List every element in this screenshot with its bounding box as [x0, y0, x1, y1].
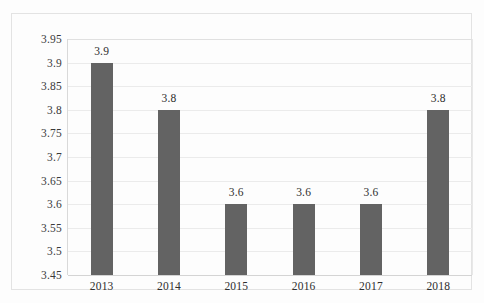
- bar: [293, 204, 315, 275]
- bar-value-label: 3.9: [94, 45, 109, 57]
- bar: [158, 110, 180, 275]
- gridline: [68, 275, 472, 276]
- x-axis-tick-label: 2017: [359, 280, 383, 292]
- y-axis-tick-label: 3.45: [41, 269, 62, 281]
- plot-area: 3.953.93.853.83.753.73.653.63.553.53.453…: [67, 39, 473, 275]
- chart-frame: 3.953.93.853.83.753.73.653.63.553.53.453…: [11, 13, 472, 290]
- y-axis-tick-label: 3.85: [41, 80, 62, 92]
- chart-screenshot: 3.953.93.853.83.753.73.653.63.553.53.453…: [0, 0, 484, 303]
- y-axis-tick-label: 3.7: [47, 151, 62, 163]
- bar-value-label: 3.6: [363, 186, 378, 198]
- bar: [225, 204, 247, 275]
- y-axis-tick-label: 3.55: [41, 222, 62, 234]
- bar-group: 3.82018: [405, 39, 472, 275]
- bar-group: 3.62016: [270, 39, 337, 275]
- y-axis-tick-label: 3.65: [41, 175, 62, 187]
- y-axis-tick-label: 3.95: [41, 33, 62, 45]
- x-axis-tick-label: 2015: [224, 280, 248, 292]
- y-axis-tick-label: 3.5: [47, 245, 62, 257]
- y-axis-tick-label: 3.6: [47, 198, 62, 210]
- bar-value-label: 3.8: [431, 92, 446, 104]
- x-axis-tick-label: 2016: [292, 280, 316, 292]
- bar-group: 3.82014: [135, 39, 202, 275]
- bar-group: 3.62015: [203, 39, 270, 275]
- bar: [360, 204, 382, 275]
- x-axis-tick-label: 2014: [157, 280, 181, 292]
- x-axis-tick-label: 2013: [90, 280, 114, 292]
- bar-group: 3.92013: [68, 39, 135, 275]
- bar-value-label: 3.6: [296, 186, 311, 198]
- bar-value-label: 3.6: [229, 186, 244, 198]
- bar-group: 3.62017: [337, 39, 404, 275]
- bar: [427, 110, 449, 275]
- bar: [91, 63, 113, 275]
- x-axis-tick-label: 2018: [426, 280, 450, 292]
- y-axis-tick-label: 3.9: [47, 57, 62, 69]
- bar-value-label: 3.8: [161, 92, 176, 104]
- y-axis-tick-label: 3.8: [47, 104, 62, 116]
- y-axis-tick-label: 3.75: [41, 127, 62, 139]
